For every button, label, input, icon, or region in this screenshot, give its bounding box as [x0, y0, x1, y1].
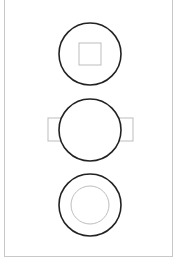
shape-circle-with-side-tabs — [48, 99, 133, 161]
outer-circle — [59, 99, 121, 161]
diagram-canvas — [0, 0, 178, 262]
inner-square — [79, 43, 101, 65]
shape-circle-with-square — [59, 23, 121, 85]
outer-circle — [59, 174, 121, 236]
shape-ring — [59, 174, 121, 236]
outer-circle — [59, 23, 121, 85]
inner-circle — [71, 186, 109, 224]
